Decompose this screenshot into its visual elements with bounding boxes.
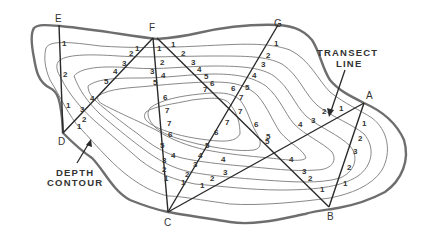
depth-label: 2 bbox=[308, 174, 313, 183]
depth-label: 6 bbox=[231, 84, 236, 93]
depth-label: 3 bbox=[311, 116, 316, 125]
depth-label: 2 bbox=[358, 134, 363, 143]
depth-label: 4 bbox=[161, 71, 166, 80]
depth-label: 6 bbox=[168, 130, 173, 139]
depth-label: 4 bbox=[221, 155, 226, 164]
depth-label: 5 bbox=[245, 83, 250, 92]
depth-label: 3 bbox=[80, 105, 85, 114]
depth-label: 3 bbox=[193, 160, 198, 169]
depth-label: 5 bbox=[266, 132, 271, 141]
depth-label: 3 bbox=[302, 167, 307, 176]
depth-label: 3 bbox=[150, 67, 155, 76]
depth-label: 2 bbox=[185, 170, 190, 179]
depth-label: 2 bbox=[162, 165, 167, 174]
depth-label: 2 bbox=[181, 49, 186, 58]
depth-label: 1 bbox=[135, 44, 140, 53]
depth-label: 4 bbox=[198, 151, 203, 160]
transect-line-label-1: TRANSECT bbox=[317, 47, 378, 58]
depth-label: 1 bbox=[274, 39, 279, 48]
depth-label: 3 bbox=[191, 58, 196, 67]
depth-contour-arrow bbox=[77, 143, 89, 163]
depth-label: 1 bbox=[171, 40, 176, 49]
depth-label: 1 bbox=[343, 179, 348, 188]
transect-line-label-2: LINE bbox=[336, 58, 362, 69]
depth-label: 1 bbox=[157, 44, 162, 53]
station-label-g: G bbox=[274, 18, 282, 29]
depth-label: 1 bbox=[362, 119, 367, 128]
depth-label: 5 bbox=[153, 78, 158, 87]
depth-label: 1 bbox=[339, 104, 344, 113]
depth-label: 1 bbox=[62, 39, 67, 48]
depth-label: 7 bbox=[225, 118, 230, 127]
depth-label: 2 bbox=[210, 174, 215, 183]
depth-label: 4 bbox=[113, 67, 118, 76]
depth-label: 4 bbox=[171, 151, 176, 160]
depth-label: 3 bbox=[261, 60, 266, 69]
depth-label: 3 bbox=[122, 59, 127, 68]
depth-label: 5 bbox=[204, 72, 209, 81]
depth-label: 3 bbox=[162, 156, 167, 165]
depth-label: 5 bbox=[160, 141, 165, 150]
station-label-a: A bbox=[366, 90, 373, 101]
depth-label: 5 bbox=[205, 141, 210, 150]
depth-label: 2 bbox=[63, 70, 68, 79]
depth-label: 4 bbox=[298, 120, 303, 129]
transect-a-b bbox=[329, 103, 364, 207]
depth-label: 4 bbox=[289, 155, 294, 164]
depth-label: 2 bbox=[160, 58, 165, 67]
depth-label: 3 bbox=[353, 147, 358, 156]
depth-label: 7 bbox=[203, 85, 208, 94]
depth-label: 4 bbox=[252, 71, 257, 80]
station-label-d: D bbox=[58, 136, 65, 147]
depth-label: 2 bbox=[82, 115, 87, 124]
depth-label: 7 bbox=[239, 93, 244, 102]
depth-contour-label-2: CONTOUR bbox=[47, 177, 103, 188]
depth-label: 4 bbox=[197, 65, 202, 74]
station-label-f: F bbox=[149, 22, 155, 33]
depth-label: 1 bbox=[200, 181, 205, 190]
depth-label: 7 bbox=[165, 106, 170, 115]
station-label-e: E bbox=[55, 13, 62, 24]
depth-label: 6 bbox=[210, 79, 215, 88]
depth-label: 1 bbox=[164, 174, 169, 183]
depth-label: 7 bbox=[167, 119, 172, 128]
depth-label: 1 bbox=[181, 178, 186, 187]
depth-label: 2 bbox=[347, 163, 352, 172]
depth-label: 1 bbox=[77, 122, 82, 131]
depth-label: 2 bbox=[266, 51, 271, 60]
depth-label: 1 bbox=[66, 101, 71, 110]
depth-label: 5 bbox=[104, 77, 109, 86]
station-label-c: C bbox=[164, 217, 171, 228]
depth-label: 3 bbox=[223, 168, 228, 177]
depth-label: 6 bbox=[254, 120, 259, 129]
depth-label: 6 bbox=[214, 128, 219, 137]
depth-label: 7 bbox=[238, 107, 243, 116]
depth-label: 1 bbox=[320, 185, 325, 194]
depth-label: 2 bbox=[129, 49, 134, 58]
lake-contour-map: TRANSECT LINE DEPTH CONTOUR EFGABCD 1211… bbox=[0, 0, 426, 235]
depth-label: 2 bbox=[322, 107, 327, 116]
depth-label: 4 bbox=[90, 94, 95, 103]
station-label-b: B bbox=[327, 211, 334, 222]
depth-label: 6 bbox=[163, 93, 168, 102]
